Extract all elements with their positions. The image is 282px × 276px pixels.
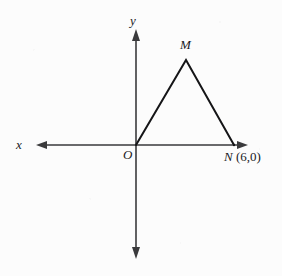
coordinate-figure: y x M O N (6,0): [0, 0, 282, 276]
triangle-omn-sides: [136, 60, 234, 145]
origin-label: O: [123, 148, 132, 161]
point-n-coordinates: (6,0): [233, 149, 261, 164]
y-axis-up-arrow-icon: [132, 29, 140, 41]
point-n-name: N: [224, 149, 233, 164]
y-axis-down-arrow-icon: [132, 247, 140, 259]
x-axis-right-arrow-icon: [237, 141, 248, 149]
x-axis-label: x: [16, 138, 22, 151]
point-label-m: M: [180, 38, 191, 51]
x-axis-left-arrow-icon: [36, 141, 47, 149]
figure-canvas: [0, 0, 282, 276]
point-n-marker: [233, 144, 235, 146]
y-axis-label: y: [130, 14, 136, 27]
point-label-n: N (6,0): [224, 150, 261, 163]
